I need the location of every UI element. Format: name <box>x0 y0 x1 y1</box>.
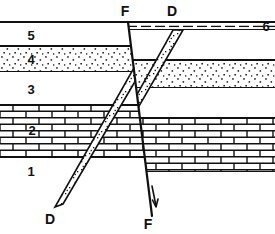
dike-top-label: D <box>167 3 177 19</box>
unit-label-4: 4 <box>27 52 35 67</box>
cross-section-canvas: 1 2 3 4 5 6 F D D F <box>0 0 275 234</box>
fault-top-label: F <box>121 3 130 19</box>
geologic-cross-section-figure: 1 2 3 4 5 6 F D D F <box>0 0 275 234</box>
dike-bottom-label: D <box>45 211 55 227</box>
unit-6-right <box>120 22 275 30</box>
unit-5-right <box>120 30 275 60</box>
unit-label-5: 5 <box>27 28 34 43</box>
unit-label-1: 1 <box>27 164 34 179</box>
unit-label-2: 2 <box>28 123 35 138</box>
unit-2-left <box>0 105 160 158</box>
unit-label-6: 6 <box>262 19 269 34</box>
unit-label-3: 3 <box>27 82 34 97</box>
fault-bottom-label: F <box>144 216 153 232</box>
